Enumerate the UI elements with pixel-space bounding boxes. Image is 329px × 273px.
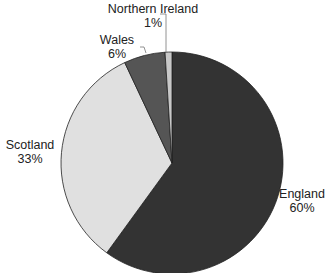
label-value: 60% bbox=[276, 201, 328, 215]
label-northern-ireland: Northern Ireland 1% bbox=[98, 2, 208, 30]
label-name: Scotland bbox=[2, 138, 58, 152]
label-name: Northern Ireland bbox=[98, 2, 208, 16]
label-england: England 60% bbox=[276, 187, 328, 215]
label-name: Wales bbox=[92, 33, 142, 47]
label-wales: Wales 6% bbox=[92, 33, 142, 61]
pie-chart bbox=[0, 0, 329, 273]
label-value: 33% bbox=[2, 152, 58, 166]
label-value: 1% bbox=[98, 16, 208, 30]
label-value: 6% bbox=[92, 47, 142, 61]
label-name: England bbox=[276, 187, 328, 201]
label-scotland: Scotland 33% bbox=[2, 138, 58, 166]
